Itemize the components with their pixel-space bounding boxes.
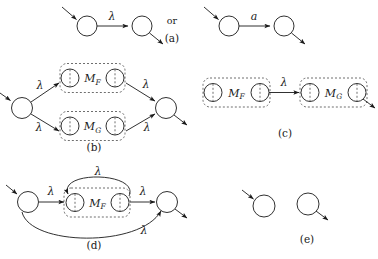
block-label-mg-sub: G [336,92,342,101]
block-label-mg: MG [324,87,342,102]
start-state-circle [18,192,39,213]
state-circle [132,16,152,36]
outgoing-arrow [316,211,328,220]
diagram-svg: λ or (a) a λ MF λ [0,0,378,259]
block-label-mg-sub: G [95,126,101,135]
panel-label-b: (b) [87,141,102,153]
panel-b: λ MF λ λ MG λ (b) [0,64,187,154]
block-label-mf-base: M [83,72,96,85]
end-state-circle [156,98,177,119]
start-state-circle [12,98,33,119]
panel-a: λ or (a) a [62,7,305,44]
edge-label-lambda: λ [140,224,148,237]
outgoing-arrow [292,33,306,44]
block-label-mf-sub: F [100,202,107,211]
block-label-mf: MF [88,197,106,212]
edge-label-lambda: λ [139,185,147,198]
edge-upper-in [31,83,59,102]
edge-label-lambda: λ [94,165,102,178]
edge-label-lambda: λ [108,10,116,23]
state-circle [77,16,97,36]
edge-label-lambda: λ [47,185,55,198]
block-label-mg: MG [83,120,101,135]
block-label-mf: MF [83,72,101,87]
incoming-arrow [6,185,17,194]
panel-label-a: (a) [165,32,179,44]
incoming-arrow [0,93,11,101]
edge-label-lambda: λ [35,121,43,134]
outgoing-arrow [175,209,187,218]
outgoing-arrow [174,115,187,125]
panel-d: λ MF λ λ λ (d) [6,165,187,251]
incoming-arrow [62,7,77,20]
entry-state-circle [253,195,275,217]
edge-label-lambda: λ [143,121,151,134]
incoming-arrow [242,190,254,199]
edge-lower-out [126,114,155,131]
panel-e: (e) [242,190,328,245]
block-label-mf-base: M [88,197,101,210]
edge-upper-out [126,83,155,101]
block-label-mf-sub: F [239,92,246,101]
panel-c: MF λ MG (c) [203,76,375,139]
panel-label-d: (d) [87,239,102,251]
block-label-mg-base: M [324,87,337,100]
edge-label-lambda: λ [36,79,44,92]
edge-label-lambda: λ [142,78,150,91]
block-label-mf-sub: F [95,78,102,87]
end-state-circle [157,192,178,213]
panel-label-c: (c) [278,127,292,139]
edge-label-a: a [251,10,258,23]
figure-canvas: λ or (a) a λ MF λ [0,0,378,259]
panel-a-connector-label: or [167,15,178,26]
block-label-mf: MF [227,87,245,102]
block-label-mf-base: M [227,87,240,100]
edge-label-lambda: λ [280,76,288,89]
state-circle [219,16,239,36]
incoming-arrow [204,7,219,20]
exit-state-circle [297,193,319,215]
block-label-mg-base: M [83,120,96,133]
panel-a-left-variant: λ [62,7,163,44]
panel-label-e: (e) [300,233,314,245]
panel-a-right-variant: a [204,7,305,44]
outgoing-arrow [150,33,164,44]
outgoing-arrow [363,99,375,108]
state-circle [274,16,294,36]
